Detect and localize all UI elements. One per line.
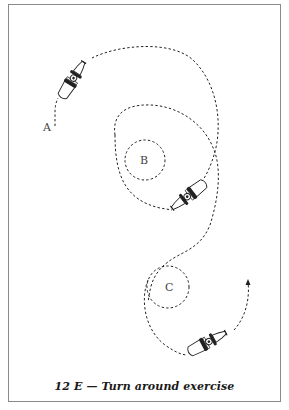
motorcycle-icon <box>55 58 89 101</box>
turn-around-diagram: A B C <box>0 0 289 410</box>
label-a: A <box>42 121 52 134</box>
arrow-head-icon <box>246 279 251 285</box>
label-c: C <box>165 281 173 294</box>
dashed-path <box>55 47 248 356</box>
motorcycle-icon <box>185 326 229 358</box>
figure-caption: 12 E — Turn around exercise <box>0 380 289 393</box>
label-b: B <box>140 154 148 167</box>
motorcycle-icon <box>168 177 210 214</box>
